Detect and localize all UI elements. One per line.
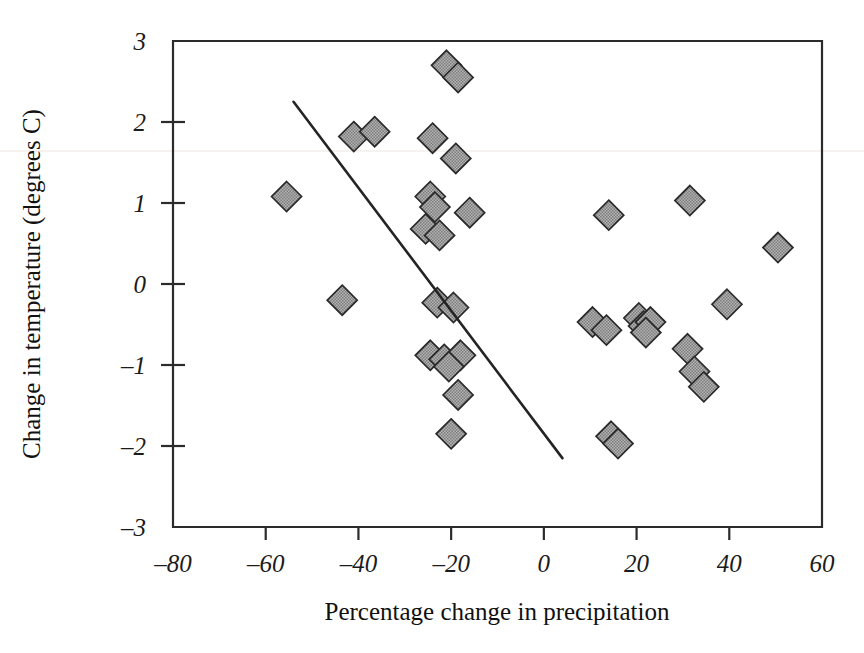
data-point-marker (436, 419, 466, 449)
axis-frame (173, 41, 822, 527)
x-axis-tick-labels: –80–60–40–200204060 (153, 550, 835, 577)
data-point-marker (763, 233, 793, 263)
y-tick-label: 2 (134, 109, 147, 136)
y-tick-label: 3 (133, 28, 147, 55)
x-tick-label: 60 (810, 550, 836, 577)
data-point-marker (594, 200, 624, 230)
x-tick-label: –20 (431, 550, 470, 577)
data-point-markers (272, 50, 793, 458)
y-tick-label: –1 (120, 352, 146, 379)
x-tick-label: –60 (246, 550, 285, 577)
x-tick-label: 0 (538, 550, 551, 577)
y-axis-tick-labels: –3–2–10123 (120, 28, 147, 541)
data-point-marker (272, 182, 302, 212)
y-tick-label: 0 (134, 271, 147, 298)
data-point-marker (441, 143, 471, 173)
x-tick-label: –80 (153, 550, 192, 577)
x-axis-tick-marks (266, 527, 730, 540)
scatter-plot-figure: –80–60–40–200204060 –3–2–10123 Percentag… (0, 0, 864, 653)
x-axis-title: Percentage change in precipitation (325, 598, 670, 625)
y-tick-label: 1 (134, 190, 147, 217)
data-point-marker (712, 289, 742, 319)
data-point-marker (675, 186, 705, 216)
data-point-marker (443, 380, 473, 410)
y-tick-label: –2 (120, 433, 146, 460)
y-tick-label: –3 (120, 514, 146, 541)
plot-canvas: –80–60–40–200204060 –3–2–10123 Percentag… (0, 0, 864, 653)
x-tick-label: –40 (339, 550, 378, 577)
data-point-marker (455, 198, 485, 228)
x-tick-label: 40 (717, 550, 743, 577)
data-point-marker (418, 123, 448, 153)
x-tick-label: 20 (624, 550, 650, 577)
trend-line (294, 102, 563, 458)
data-point-marker (327, 285, 357, 315)
y-axis-title: Change in temperature (degrees C) (18, 109, 46, 459)
